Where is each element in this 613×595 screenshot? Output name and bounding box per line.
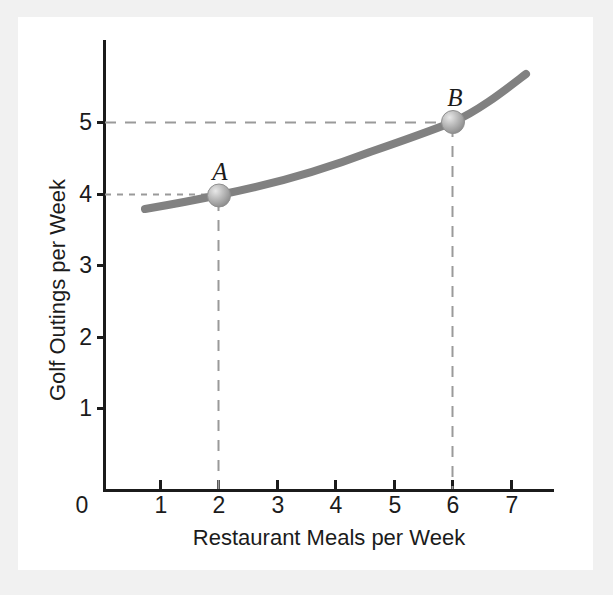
data-point-b-label: B <box>440 85 470 110</box>
x-tick-label-5: 5 <box>380 494 410 517</box>
data-point-a-label: A <box>205 159 235 184</box>
x-tick-marks <box>161 480 512 489</box>
figure-container: 1 2 3 4 5 0 1 2 3 4 5 6 7 A B Restaurant… <box>0 0 613 595</box>
x-axis-title: Restaurant Meals per Week <box>104 525 554 551</box>
x-tick-label-3: 3 <box>263 494 293 517</box>
x-tick-label-1: 1 <box>146 494 176 517</box>
origin-tick-label: 0 <box>67 494 97 517</box>
data-point-a[interactable] <box>208 184 231 207</box>
data-point-b[interactable] <box>442 111 465 134</box>
x-tick-label-2: 2 <box>204 494 234 517</box>
x-tick-label-4: 4 <box>321 494 351 517</box>
x-tick-label-6: 6 <box>438 494 468 517</box>
x-tick-label-7: 7 <box>497 494 527 517</box>
y-axis-title: Golf Outings per Week <box>45 125 71 455</box>
y-tick-marks <box>97 123 104 409</box>
